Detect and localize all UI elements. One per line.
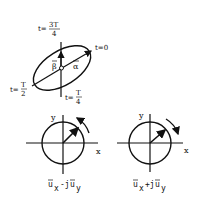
svg-text:t=: t= bbox=[38, 25, 47, 33]
right-caption: u x +j u y bbox=[133, 180, 166, 193]
origin-point bbox=[60, 66, 64, 70]
right-circular-polarization: y x u x +j u y bbox=[117, 111, 189, 193]
left-caption: u x -j u y bbox=[48, 180, 81, 193]
label-t-T4: t= T 4 bbox=[65, 89, 82, 106]
label-t-3T4: t= 3T 4 bbox=[38, 21, 60, 38]
left-rotation-arrow-icon bbox=[77, 118, 89, 133]
right-x-label: x bbox=[184, 146, 189, 155]
left-x-label: x bbox=[96, 147, 101, 156]
svg-text:x: x bbox=[54, 184, 59, 193]
svg-text:4: 4 bbox=[52, 30, 57, 38]
polarization-ellipse-group: β α t= 3T 4 t=0 t= T 2 t= T 4 bbox=[10, 21, 108, 106]
left-radius-arrow bbox=[63, 128, 78, 143]
svg-text:T: T bbox=[21, 81, 26, 89]
right-y-label: y bbox=[138, 111, 144, 120]
left-y-label: y bbox=[50, 113, 56, 122]
svg-text:y: y bbox=[161, 184, 166, 193]
svg-text:u: u bbox=[48, 180, 53, 189]
label-t-0: t=0 bbox=[95, 44, 108, 52]
svg-text:u: u bbox=[133, 180, 138, 189]
svg-text:-j: -j bbox=[60, 180, 70, 189]
svg-text:2: 2 bbox=[21, 90, 25, 98]
right-radius-arrow bbox=[150, 130, 165, 143]
svg-text:+j: +j bbox=[145, 180, 155, 189]
beta-label: β bbox=[52, 62, 57, 71]
svg-text:x: x bbox=[139, 184, 144, 193]
alpha-label: α bbox=[73, 62, 79, 71]
svg-text:T: T bbox=[76, 89, 81, 97]
svg-text:t=: t= bbox=[65, 94, 74, 102]
label-t-T2: t= T 2 bbox=[10, 81, 27, 98]
svg-text:u: u bbox=[155, 180, 160, 189]
left-circular-polarization: y x u x -j u y bbox=[26, 113, 101, 193]
svg-text:y: y bbox=[76, 184, 81, 193]
svg-text:3T: 3T bbox=[49, 21, 58, 29]
svg-text:t=: t= bbox=[10, 86, 19, 94]
svg-text:4: 4 bbox=[76, 98, 81, 106]
polarization-diagram: β α t= 3T 4 t=0 t= T 2 t= T 4 bbox=[0, 0, 204, 210]
svg-text:u: u bbox=[70, 180, 75, 189]
